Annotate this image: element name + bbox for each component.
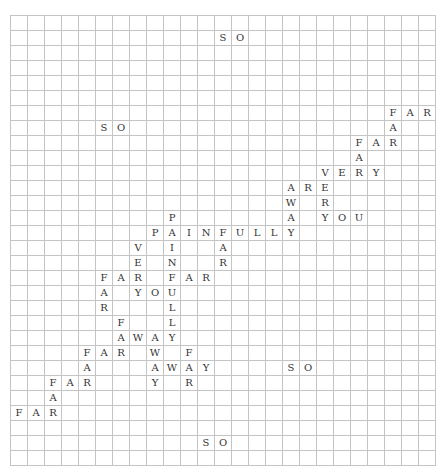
empty-cell <box>113 61 130 76</box>
empty-cell <box>283 106 300 121</box>
empty-cell <box>45 316 62 331</box>
empty-cell <box>79 121 96 136</box>
empty-cell <box>351 421 368 436</box>
empty-cell <box>283 331 300 346</box>
empty-cell <box>368 61 385 76</box>
empty-cell <box>249 286 266 301</box>
empty-cell <box>28 376 45 391</box>
empty-cell <box>419 31 436 46</box>
empty-cell <box>385 346 402 361</box>
empty-cell <box>402 181 419 196</box>
empty-cell <box>198 331 215 346</box>
letter-cell: A <box>164 226 181 241</box>
empty-cell <box>351 271 368 286</box>
letter-cell: Y <box>283 226 300 241</box>
empty-cell <box>28 46 45 61</box>
letter-cell: L <box>164 301 181 316</box>
empty-cell <box>351 106 368 121</box>
empty-cell <box>164 76 181 91</box>
letter-cell: A <box>28 406 45 421</box>
letter-cell: Y <box>147 376 164 391</box>
empty-cell <box>317 451 334 466</box>
empty-cell <box>147 151 164 166</box>
empty-cell <box>45 151 62 166</box>
empty-cell <box>62 331 79 346</box>
empty-cell <box>334 91 351 106</box>
empty-cell <box>419 331 436 346</box>
empty-cell <box>164 451 181 466</box>
empty-cell <box>300 31 317 46</box>
empty-cell <box>249 301 266 316</box>
empty-cell <box>266 136 283 151</box>
empty-cell <box>45 211 62 226</box>
empty-cell <box>317 226 334 241</box>
empty-cell <box>334 106 351 121</box>
empty-cell <box>300 286 317 301</box>
empty-cell <box>147 91 164 106</box>
empty-cell <box>164 16 181 31</box>
empty-cell <box>130 166 147 181</box>
empty-cell <box>368 436 385 451</box>
empty-cell <box>317 241 334 256</box>
empty-cell <box>62 361 79 376</box>
empty-cell <box>96 361 113 376</box>
empty-cell <box>79 46 96 61</box>
empty-cell <box>232 376 249 391</box>
empty-cell <box>232 106 249 121</box>
empty-cell <box>181 106 198 121</box>
empty-cell <box>113 391 130 406</box>
letter-cell: F <box>79 346 96 361</box>
empty-cell <box>147 106 164 121</box>
letter-cell: O <box>232 31 249 46</box>
empty-cell <box>334 16 351 31</box>
empty-cell <box>300 346 317 361</box>
letter-cell: O <box>147 286 164 301</box>
empty-cell <box>45 106 62 121</box>
empty-cell <box>215 286 232 301</box>
empty-cell <box>96 451 113 466</box>
empty-cell <box>181 451 198 466</box>
empty-cell <box>28 181 45 196</box>
empty-cell <box>232 181 249 196</box>
empty-cell <box>215 391 232 406</box>
empty-cell <box>283 31 300 46</box>
empty-cell <box>385 391 402 406</box>
letter-cell: A <box>96 286 113 301</box>
empty-cell <box>300 16 317 31</box>
empty-cell <box>385 241 402 256</box>
empty-cell <box>300 391 317 406</box>
empty-cell <box>419 376 436 391</box>
empty-cell <box>113 211 130 226</box>
empty-cell <box>96 376 113 391</box>
empty-cell <box>45 436 62 451</box>
empty-cell <box>385 361 402 376</box>
empty-cell <box>181 436 198 451</box>
letter-cell: F <box>96 271 113 286</box>
empty-cell <box>11 181 28 196</box>
empty-cell <box>164 166 181 181</box>
letter-cell: R <box>351 166 368 181</box>
empty-cell <box>317 256 334 271</box>
empty-cell <box>164 376 181 391</box>
empty-cell <box>266 211 283 226</box>
empty-cell <box>385 16 402 31</box>
empty-cell <box>130 226 147 241</box>
letter-cell: S <box>96 121 113 136</box>
empty-cell <box>402 286 419 301</box>
empty-cell <box>402 166 419 181</box>
empty-cell <box>113 361 130 376</box>
empty-cell <box>317 31 334 46</box>
empty-cell <box>130 16 147 31</box>
empty-cell <box>96 331 113 346</box>
empty-cell <box>130 151 147 166</box>
empty-cell <box>385 91 402 106</box>
empty-cell <box>402 226 419 241</box>
empty-cell <box>79 316 96 331</box>
empty-cell <box>249 31 266 46</box>
empty-cell <box>96 136 113 151</box>
empty-cell <box>96 61 113 76</box>
empty-cell <box>215 151 232 166</box>
empty-cell <box>28 256 45 271</box>
empty-cell <box>232 256 249 271</box>
empty-cell <box>283 121 300 136</box>
